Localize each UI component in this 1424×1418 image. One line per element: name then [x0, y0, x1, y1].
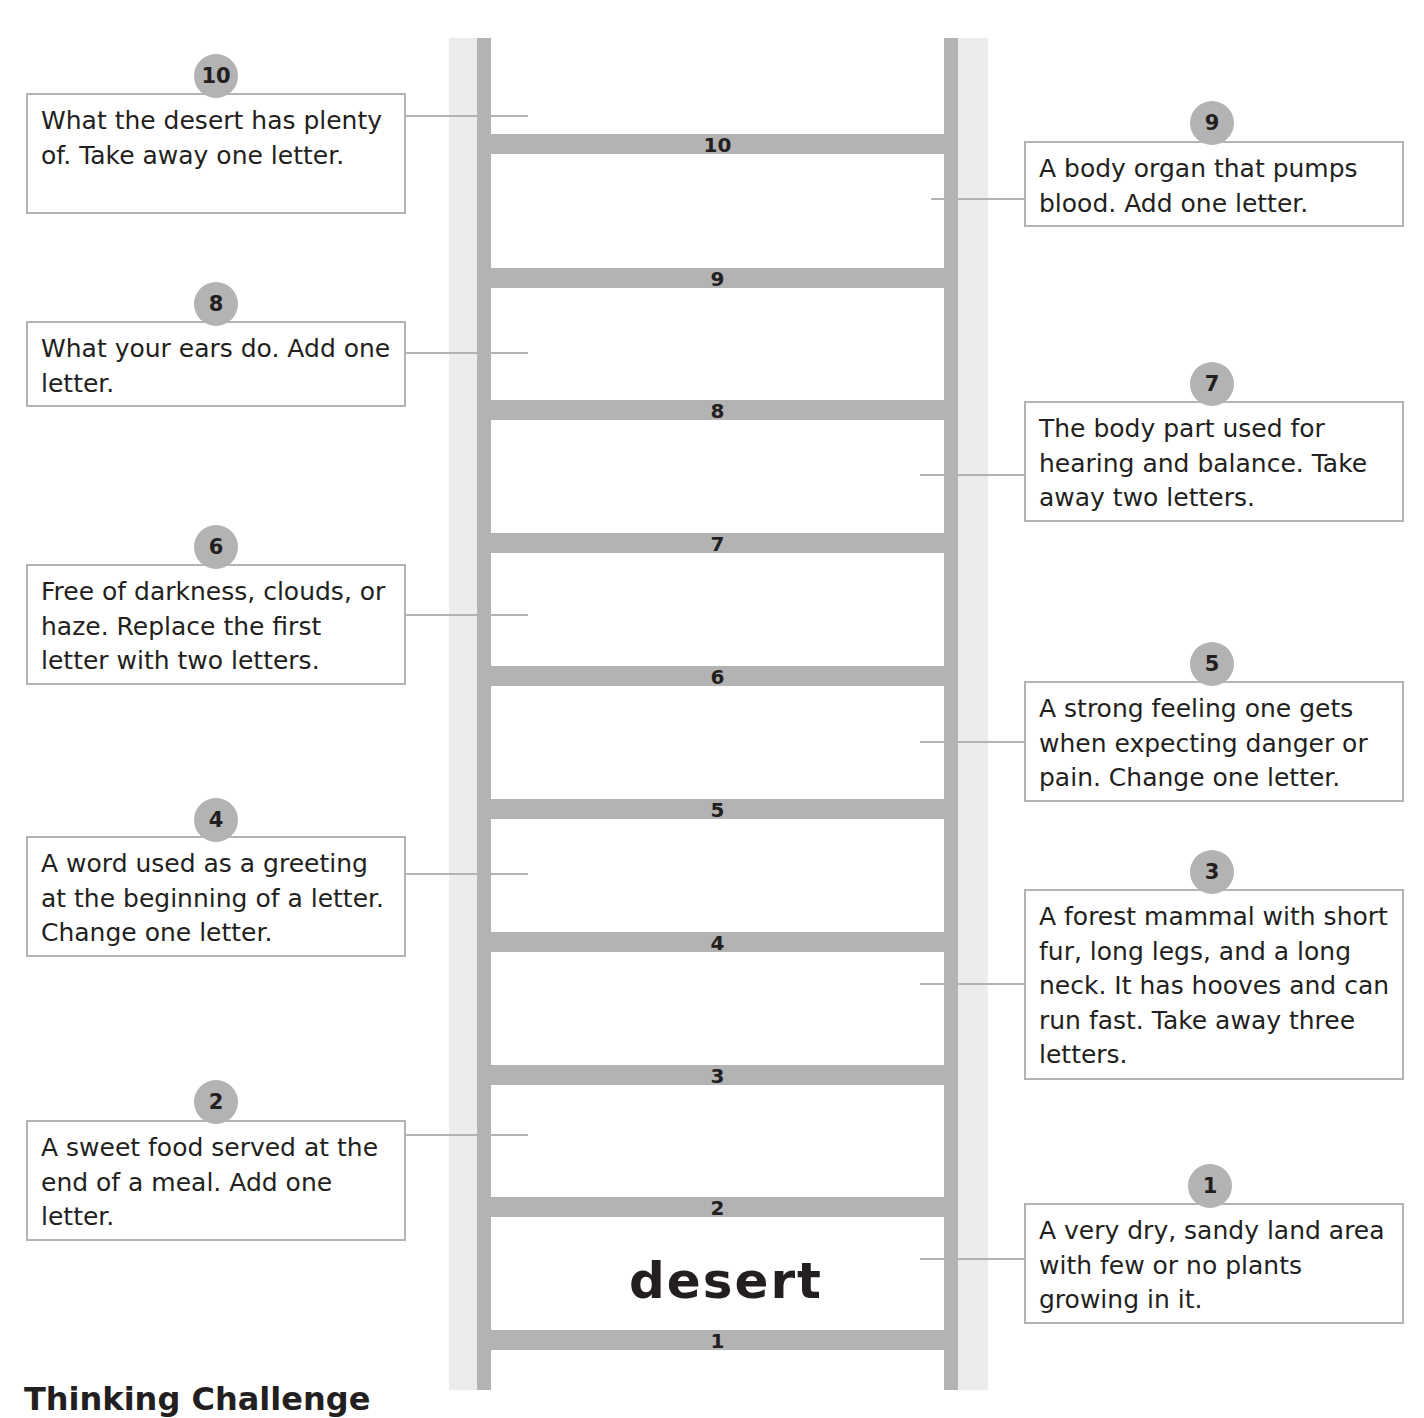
- clue-text-4: A word used as a greeting at the beginni…: [41, 849, 384, 947]
- clue-text-8: What your ears do. Add one letter.: [41, 334, 390, 398]
- ladder-rung-2: 2: [491, 1197, 944, 1217]
- clue-box-7: The body part used for hearing and balan…: [1024, 401, 1404, 522]
- start-word: desert: [491, 1252, 961, 1310]
- clue-number-badge-6: 6: [194, 525, 238, 569]
- clue-number-badge-7: 7: [1190, 362, 1234, 406]
- ladder-rung-4: 4: [491, 932, 944, 952]
- section-title: Thinking Challenge: [24, 1380, 370, 1418]
- clue-box-3: A forest mammal with short fur, long leg…: [1024, 889, 1404, 1080]
- ladder-rung-8: 8: [491, 400, 944, 420]
- clue-number-badge-5: 5: [1190, 642, 1234, 686]
- connector-10: [406, 115, 528, 117]
- clue-text-5: A strong feeling one gets when expecting…: [1039, 694, 1368, 792]
- clue-box-6: Free of darkness, clouds, or haze. Repla…: [26, 564, 406, 685]
- clue-number-badge-9: 9: [1190, 101, 1234, 145]
- clue-text-1: A very dry, sandy land area with few or …: [1039, 1216, 1385, 1314]
- clue-number-badge-1: 1: [1188, 1164, 1232, 1208]
- clue-number-badge-4: 4: [194, 798, 238, 842]
- connector-9: [931, 198, 1024, 200]
- ladder-rung-10: 10: [491, 134, 944, 154]
- clue-box-2: A sweet food served at the end of a meal…: [26, 1120, 406, 1241]
- connector-2: [406, 1134, 528, 1136]
- clue-number-badge-10: 10: [194, 54, 238, 98]
- clue-text-7: The body part used for hearing and balan…: [1039, 414, 1367, 512]
- clue-number-badge-8: 8: [194, 282, 238, 326]
- ladder-left-rail: [477, 38, 491, 1390]
- clue-box-8: What your ears do. Add one letter.: [26, 321, 406, 407]
- connector-8: [406, 352, 528, 354]
- clue-text-6: Free of darkness, clouds, or haze. Repla…: [41, 577, 385, 675]
- ladder-right-rail: [944, 38, 958, 1390]
- clue-text-2: A sweet food served at the end of a meal…: [41, 1133, 378, 1231]
- clue-number-badge-2: 2: [194, 1080, 238, 1124]
- clue-box-5: A strong feeling one gets when expecting…: [1024, 681, 1404, 802]
- clue-box-9: A body organ that pumps blood. Add one l…: [1024, 141, 1404, 227]
- ladder-rung-3: 3: [491, 1065, 944, 1085]
- connector-5: [920, 741, 1024, 743]
- connector-3: [920, 983, 1024, 985]
- clue-text-3: A forest mammal with short fur, long leg…: [1039, 902, 1389, 1069]
- clue-number-badge-3: 3: [1190, 850, 1234, 894]
- clue-box-10: What the desert has plenty of. Take away…: [26, 93, 406, 214]
- ladder-rung-1: 1: [491, 1330, 944, 1350]
- ladder-rung-6: 6: [491, 666, 944, 686]
- clue-text-9: A body organ that pumps blood. Add one l…: [1039, 154, 1358, 218]
- ladder-rung-9: 9: [491, 268, 944, 288]
- ladder-rung-5: 5: [491, 799, 944, 819]
- clue-box-4: A word used as a greeting at the beginni…: [26, 836, 406, 957]
- connector-6: [406, 614, 528, 616]
- connector-4: [406, 873, 528, 875]
- connector-1: [920, 1258, 1024, 1260]
- ladder-rung-7: 7: [491, 533, 944, 553]
- clue-text-10: What the desert has plenty of. Take away…: [41, 106, 382, 170]
- clue-box-1: A very dry, sandy land area with few or …: [1024, 1203, 1404, 1324]
- connector-7: [920, 474, 1024, 476]
